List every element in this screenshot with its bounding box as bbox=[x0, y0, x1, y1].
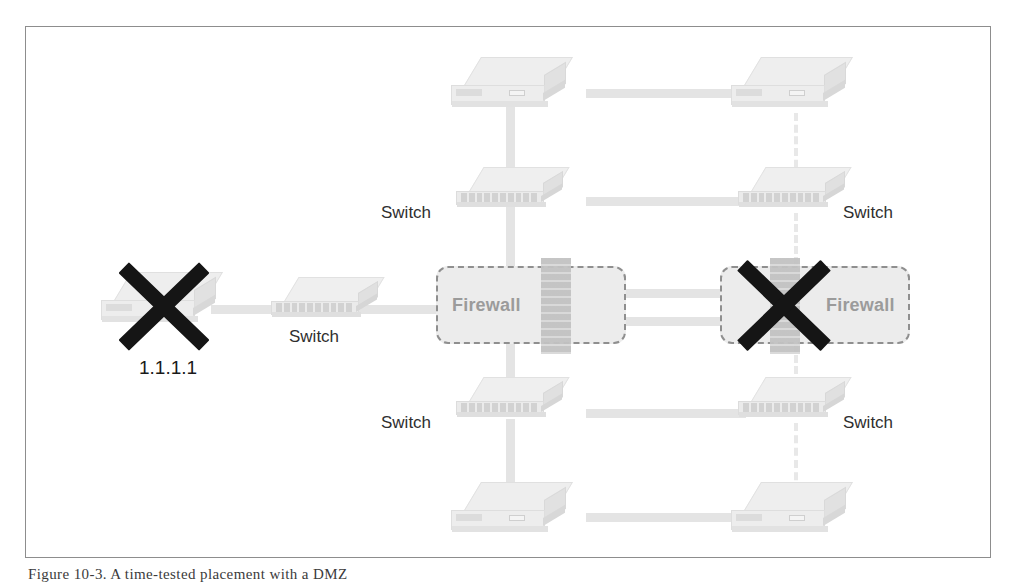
switch-base bbox=[739, 202, 828, 207]
router-top-right[interactable] bbox=[731, 57, 847, 113]
router-base bbox=[732, 101, 828, 107]
switch-bottom-center-label: Switch bbox=[381, 413, 431, 433]
switch-base bbox=[739, 412, 828, 417]
switch-bottom-right[interactable] bbox=[738, 377, 850, 427]
router-vent bbox=[456, 89, 482, 96]
switch-port-row bbox=[743, 193, 819, 202]
link-firewall-left-to-firewall-right-lower bbox=[626, 317, 720, 326]
router-led bbox=[509, 90, 525, 96]
switch-top-right[interactable] bbox=[738, 167, 850, 217]
link-firewall-left-to-firewall-right-upper bbox=[626, 289, 720, 298]
router-vent bbox=[736, 89, 762, 96]
router-led bbox=[789, 515, 805, 521]
firewall-left-label: Firewall bbox=[452, 295, 521, 316]
x-mark-icon-internet-router bbox=[108, 252, 220, 360]
switch-port-row bbox=[276, 303, 352, 312]
switch-port-row bbox=[743, 403, 819, 412]
router-led bbox=[509, 515, 525, 521]
switch-base bbox=[457, 202, 546, 207]
link-router-top-center-to-router-top-right bbox=[586, 89, 736, 98]
switch-bottom-right-label: Switch bbox=[843, 413, 893, 433]
link-router-bottom-center-to-router-bottom-right bbox=[586, 513, 736, 522]
x-mark-icon-right-firewall bbox=[726, 249, 842, 361]
router-base bbox=[732, 526, 828, 532]
figure-frame: Switch Switch 1.1.1.1 bbox=[25, 26, 991, 558]
switch-top-right-label: Switch bbox=[843, 203, 893, 223]
switch-left[interactable] bbox=[271, 277, 383, 327]
switch-top-center[interactable] bbox=[456, 167, 568, 217]
figure-caption: Figure 10-3. A time-tested placement wit… bbox=[28, 566, 728, 582]
router-internet-ip-label: 1.1.1.1 bbox=[139, 357, 197, 379]
router-vent bbox=[456, 514, 482, 521]
switch-left-label: Switch bbox=[289, 327, 339, 347]
switch-port-row bbox=[461, 193, 537, 202]
switch-bottom-center[interactable] bbox=[456, 377, 568, 427]
router-vent bbox=[736, 514, 762, 521]
switch-port-row bbox=[461, 403, 537, 412]
firewall-brick-icon bbox=[541, 258, 571, 354]
router-bottom-right[interactable] bbox=[731, 482, 847, 538]
switch-base bbox=[457, 412, 546, 417]
switch-base bbox=[272, 312, 361, 317]
router-bottom-center[interactable] bbox=[451, 482, 567, 538]
network-diagram-canvas: Switch Switch 1.1.1.1 bbox=[26, 27, 992, 559]
firewall-left[interactable]: Firewall bbox=[436, 266, 626, 344]
link-switch-bottom-center-to-switch-bottom-right bbox=[586, 409, 746, 418]
router-base bbox=[452, 526, 548, 532]
router-top-center[interactable] bbox=[451, 57, 567, 113]
switch-top-center-label: Switch bbox=[381, 203, 431, 223]
link-switch-top-center-to-switch-top-right bbox=[586, 197, 746, 206]
router-base bbox=[452, 101, 548, 107]
router-led bbox=[789, 90, 805, 96]
